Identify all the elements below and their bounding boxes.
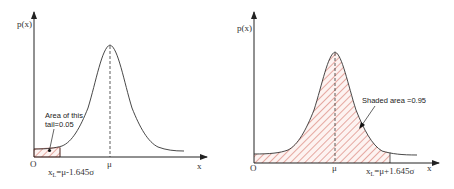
left-origin-label: O [30,159,37,169]
left-y-axis-label: p(x) [17,19,32,29]
right-mean-label: μ [332,163,337,173]
normal-distribution-diagrams: p(x) x O μ xL=μ-1.645σ Area of this tail… [0,0,454,189]
right-shaded-area [254,52,390,163]
left-x-axis-label: x [197,161,202,171]
left-chart: p(x) x O μ xL=μ-1.645σ Area of this tail… [17,12,207,178]
left-annotation-dot [48,149,51,152]
right-y-axis-label: p(x) [237,23,252,33]
left-threshold-label: xL=μ-1.645σ [48,167,94,178]
right-annotation: Shaded area =0.95 [362,96,426,105]
left-annotation-line1: Area of this [45,111,83,120]
right-chart: p(x) x O μ xL=μ+1.645σ Shaded area =0.95 [237,12,439,177]
left-annotation-line2: tail=0.05 [45,120,74,129]
left-annotation-arrow [50,129,55,150]
left-mean-label: μ [107,159,112,169]
right-annotation-arrow [362,106,375,125]
right-origin-label: O [250,163,257,173]
left-bell-curve [34,45,184,151]
right-x-axis-label: x [427,163,432,173]
right-threshold-label: xL=μ+1.645σ [366,166,414,177]
